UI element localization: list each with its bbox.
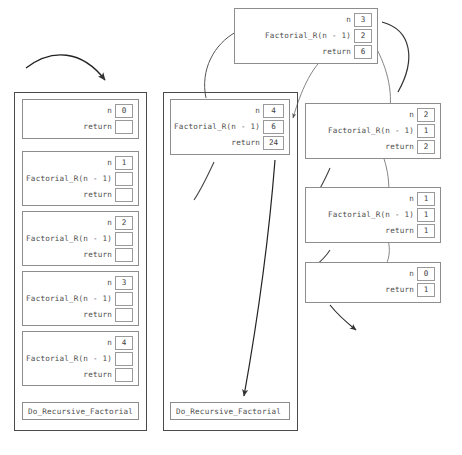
field-value-return[interactable] [115, 120, 133, 134]
field-value-n[interactable]: 0 [115, 104, 133, 118]
field-label-return: return [83, 187, 115, 202]
right-record-0[interactable]: n 0 return 1 [305, 262, 441, 303]
arrow-call-3-to-2 [382, 22, 409, 92]
field-value-return[interactable] [115, 308, 133, 322]
field-value-n[interactable]: 0 [417, 267, 435, 281]
field-label-n: n [409, 191, 417, 206]
left-record-2[interactable]: n 2 Factorial_R(n - 1) return [22, 211, 139, 266]
field-value-return[interactable]: 24 [263, 136, 284, 150]
right-record-2[interactable]: n 2 Factorial_R(n - 1) 1 return 2 [305, 103, 441, 159]
field-label-n: n [107, 155, 115, 170]
right-record-1[interactable]: n 1 Factorial_R(n - 1) 1 return 1 [305, 187, 441, 243]
field-label-n: n [107, 215, 115, 230]
record-row-n: n 3 [27, 275, 133, 290]
field-label-return: return [385, 223, 417, 238]
record-row-return: return 1 [310, 282, 435, 297]
left-record-3[interactable]: n 3 Factorial_R(n - 1) return [22, 271, 139, 326]
record-row-return: return 2 [310, 139, 435, 154]
field-value-return[interactable] [115, 188, 133, 202]
record-row-return: return [27, 187, 133, 202]
field-label-call: Factorial_R(n - 1) [26, 291, 115, 306]
field-label-return: return [385, 282, 417, 297]
middle-record-4[interactable]: n 4 Factorial_R(n - 1) 6 return 24 [170, 99, 290, 155]
field-label-call: Factorial_R(n - 1) [174, 119, 263, 134]
record-row-call: Factorial_R(n - 1) [27, 171, 133, 186]
field-label-return: return [385, 139, 417, 154]
field-value-n[interactable]: 3 [115, 276, 133, 290]
record-row-n: n 4 [27, 335, 133, 350]
field-value-return[interactable] [115, 368, 133, 382]
field-label-return: return [322, 44, 354, 59]
field-value-call[interactable] [115, 232, 133, 246]
field-value-n[interactable]: 4 [115, 336, 133, 350]
field-value-call[interactable]: 2 [354, 29, 372, 43]
field-value-call[interactable] [115, 352, 133, 366]
arrow-unwind [26, 55, 105, 80]
right-record-3[interactable]: n 3 Factorial_R(n - 1) 2 return 6 [234, 8, 378, 64]
field-label-n: n [107, 335, 115, 350]
field-label-n: n [409, 107, 417, 122]
field-value-return[interactable] [115, 248, 133, 262]
field-label-call: Factorial_R(n - 1) [328, 123, 417, 138]
record-row-return: return [27, 119, 133, 134]
middle-caller-box[interactable]: Do_Recursive_Factorial [170, 402, 290, 420]
record-row-return: return [27, 307, 133, 322]
field-value-n[interactable]: 3 [354, 13, 372, 27]
record-row-call: Factorial_R(n - 1) 6 [175, 119, 284, 134]
field-label-n: n [255, 103, 263, 118]
field-label-call: Factorial_R(n - 1) [26, 171, 115, 186]
record-row-n: n 2 [27, 215, 133, 230]
caller-label: Do_Recursive_Factorial [28, 407, 133, 416]
caller-label: Do_Recursive_Factorial [176, 407, 281, 416]
record-row-n: n 1 [27, 155, 133, 170]
field-value-n[interactable]: 2 [417, 108, 435, 122]
field-label-return: return [231, 135, 263, 150]
field-value-return[interactable]: 1 [417, 224, 435, 238]
field-value-call[interactable] [115, 292, 133, 306]
field-value-n[interactable]: 2 [115, 216, 133, 230]
left-record-1[interactable]: n 1 Factorial_R(n - 1) return [22, 151, 139, 206]
record-row-call: Factorial_R(n - 1) 1 [310, 123, 435, 138]
field-value-return[interactable]: 1 [417, 283, 435, 297]
field-value-return[interactable]: 2 [417, 140, 435, 154]
record-row-call: Factorial_R(n - 1) 2 [239, 28, 372, 43]
arrow-call-4-to-3 [205, 32, 236, 98]
field-value-n[interactable]: 1 [417, 192, 435, 206]
field-label-n: n [107, 275, 115, 290]
field-value-call[interactable]: 6 [263, 120, 284, 134]
field-value-n[interactable]: 4 [263, 104, 284, 118]
field-value-call[interactable]: 1 [417, 124, 435, 138]
field-value-return[interactable]: 6 [354, 45, 372, 59]
left-record-4[interactable]: n 4 Factorial_R(n - 1) return [22, 331, 139, 386]
field-label-n: n [409, 266, 417, 281]
figure-canvas: n 0 return n 1 Factorial_R(n - 1) return… [0, 0, 462, 455]
field-label-call: Factorial_R(n - 1) [26, 351, 115, 366]
record-row-n: n 2 [310, 107, 435, 122]
record-row-return: return 1 [310, 223, 435, 238]
record-row-n: n 4 [175, 103, 284, 118]
field-label-call: Factorial_R(n - 1) [26, 231, 115, 246]
record-row-n: n 1 [310, 191, 435, 206]
record-row-n: n 0 [310, 266, 435, 281]
record-row-return: return 24 [175, 135, 284, 150]
field-label-n: n [346, 12, 354, 27]
record-row-n: n 3 [239, 12, 372, 27]
field-label-n: n [107, 103, 115, 118]
record-row-call: Factorial_R(n - 1) [27, 351, 133, 366]
left-record-0[interactable]: n 0 return [22, 99, 139, 139]
field-label-call: Factorial_R(n - 1) [265, 28, 354, 43]
record-row-return: return [27, 367, 133, 382]
field-label-return: return [83, 367, 115, 382]
field-value-call[interactable] [115, 172, 133, 186]
record-row-call: Factorial_R(n - 1) 1 [310, 207, 435, 222]
arrow-basecase-exit [330, 305, 356, 330]
record-row-return: return 6 [239, 44, 372, 59]
field-value-call[interactable]: 1 [417, 208, 435, 222]
left-caller-box[interactable]: Do_Recursive_Factorial [22, 402, 139, 420]
record-row-call: Factorial_R(n - 1) [27, 291, 133, 306]
field-label-return: return [83, 247, 115, 262]
field-value-n[interactable]: 1 [115, 156, 133, 170]
field-label-return: return [83, 307, 115, 322]
record-row-n: n 0 [27, 103, 133, 118]
field-label-call: Factorial_R(n - 1) [328, 207, 417, 222]
